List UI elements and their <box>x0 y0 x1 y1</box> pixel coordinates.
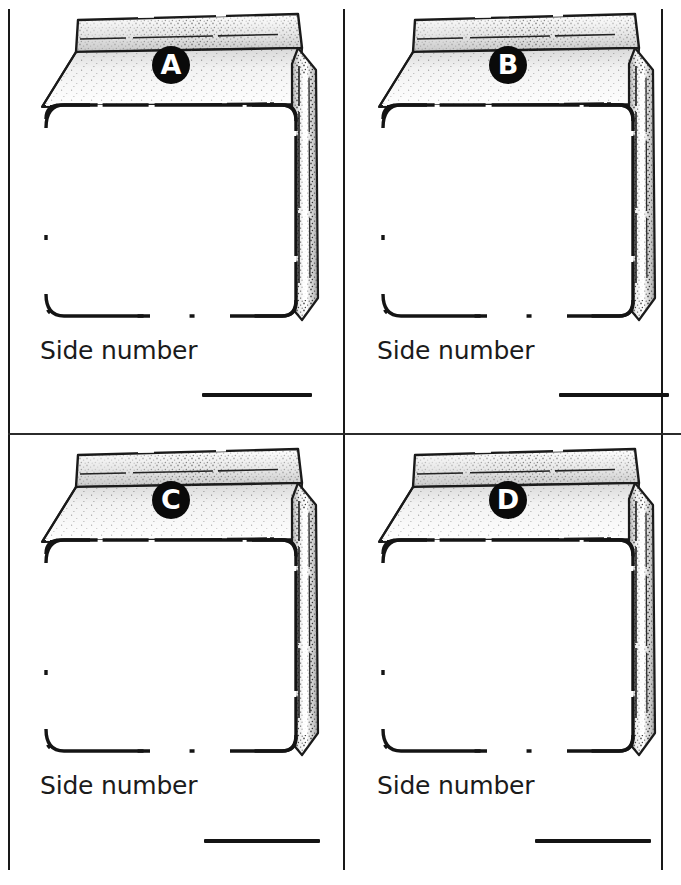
panel-badge-letter-b: B <box>489 46 527 84</box>
panel-badge-letter-c: C <box>152 481 190 519</box>
panel-a: A Side number <box>8 0 343 434</box>
caption-side-number-c: Side number <box>40 771 197 800</box>
panel-d: D Side number <box>345 435 680 869</box>
panel-b: B Side number <box>345 0 680 434</box>
caption-side-number-a: Side number <box>40 336 197 365</box>
panel-badge-letter-a: A <box>152 46 190 84</box>
worksheet-page: A Side number <box>0 0 681 885</box>
answer-blank-a[interactable] <box>202 393 312 397</box>
caption-side-number-b: Side number <box>377 336 534 365</box>
panel-c: C Side number <box>8 435 343 869</box>
answer-blank-c[interactable] <box>204 839 320 843</box>
panel-badge-letter-d: D <box>489 481 527 519</box>
caption-side-number-d: Side number <box>377 771 534 800</box>
answer-blank-d[interactable] <box>535 839 651 843</box>
answer-blank-b[interactable] <box>559 393 669 397</box>
